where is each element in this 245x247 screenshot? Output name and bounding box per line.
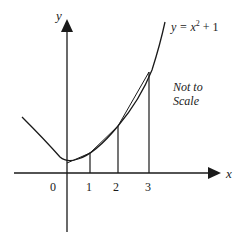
tick-label-3: 3 — [145, 180, 151, 194]
tick-label-2: 2 — [113, 180, 119, 194]
y-axis-label: y — [54, 8, 62, 23]
parabola-curve — [22, 22, 165, 161]
x-axis-label: x — [225, 166, 232, 181]
chord-segments — [67, 72, 149, 163]
tick-label-1: 1 — [86, 180, 92, 194]
x-axis-arrowhead — [208, 167, 221, 179]
tick-label-0: 0 — [50, 180, 56, 194]
diagram-canvas: y x 0 1 2 3 y = x2 + 1 Not to Scale — [0, 0, 245, 247]
not-to-scale-note-line2: Scale — [173, 94, 200, 108]
not-to-scale-note-line1: Not to — [172, 80, 203, 94]
y-axis-arrowhead — [61, 19, 73, 32]
curve-equation-label: y = x2 + 1 — [170, 19, 219, 34]
